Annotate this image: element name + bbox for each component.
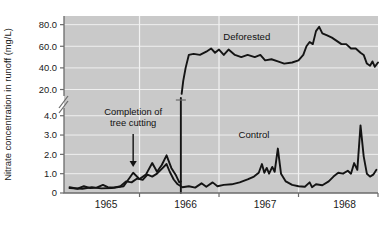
y-axis-tick-label: 2.0 <box>44 149 57 160</box>
y-axis-title: Nitrate concentration in runoff (mg/L) <box>2 28 13 181</box>
y-axis-tick-label: 80.0 <box>39 19 57 30</box>
y-axis-tick-label: 40.0 <box>39 62 57 73</box>
y-axis-tick-label: 1.0 <box>44 168 57 179</box>
annotation-line-2: tree cutting <box>110 117 156 128</box>
annotation-line-1: Completion of <box>104 106 162 117</box>
series-label-control: Control <box>239 129 270 140</box>
y-axis-tick-label: 3.0 <box>44 129 57 140</box>
x-axis-tick-label: 1968 <box>333 199 356 210</box>
chart-figure: 20.040.060.080.001.02.03.04.019651966196… <box>0 0 390 228</box>
x-axis-tick-label: 1967 <box>254 199 277 210</box>
series-label-deforested: Deforested <box>223 31 270 42</box>
plot-background <box>64 16 378 193</box>
y-axis-tick-label: 60.0 <box>39 41 57 52</box>
chart-canvas: 20.040.060.080.001.02.03.04.019651966196… <box>0 0 390 228</box>
y-axis-tick-label: 20.0 <box>39 84 57 95</box>
y-axis-tick-label: 4.0 <box>44 110 57 121</box>
x-axis-tick-label: 1966 <box>174 199 197 210</box>
x-axis-tick-label: 1965 <box>95 199 118 210</box>
y-axis-tick-label: 0 <box>52 187 57 198</box>
